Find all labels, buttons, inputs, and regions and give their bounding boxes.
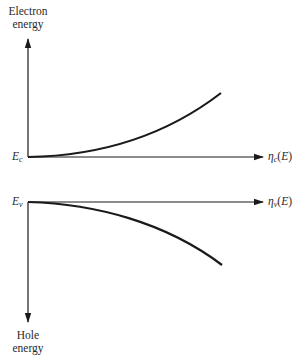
hole-energy-label: Hole energy bbox=[2, 329, 54, 355]
electron-energy-label-line2: energy bbox=[2, 18, 54, 31]
electron-energy-label-line1: Electron bbox=[2, 5, 54, 18]
eta-c-label-close: ) bbox=[288, 150, 292, 162]
ev-label-main: E bbox=[12, 195, 19, 207]
eta-v-label-close: ) bbox=[288, 195, 292, 207]
density-of-states-diagram bbox=[0, 0, 305, 361]
ec-label-main: E bbox=[12, 150, 19, 162]
eta-v-label: ηv(E) bbox=[268, 195, 292, 209]
hole-energy-label-line1: Hole bbox=[2, 329, 54, 342]
ev-label: Ev bbox=[12, 195, 23, 209]
valence-band-curve bbox=[28, 202, 222, 265]
eta-c-label: ηc(E) bbox=[268, 150, 292, 164]
hole-energy-label-line2: energy bbox=[2, 342, 54, 355]
ec-label-sub: c bbox=[19, 155, 23, 164]
conduction-band-curve bbox=[28, 93, 221, 157]
ec-label: Ec bbox=[12, 150, 23, 164]
ev-label-sub: v bbox=[19, 200, 23, 209]
electron-energy-label: Electron energy bbox=[2, 5, 54, 31]
